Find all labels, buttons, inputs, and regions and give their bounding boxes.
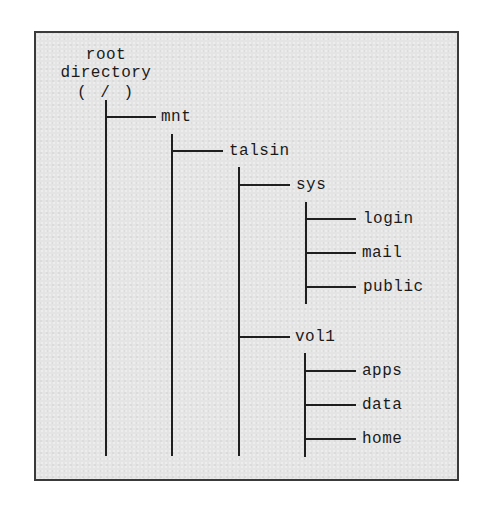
node-login: login xyxy=(363,210,414,228)
node-talsin: talsin xyxy=(229,142,290,160)
node-public: public xyxy=(363,278,424,296)
root-label-line1: root xyxy=(56,46,156,64)
node-sys: sys xyxy=(296,176,326,194)
node-vol1: vol1 xyxy=(295,328,335,346)
node-mail: mail xyxy=(362,244,402,262)
node-mnt: mnt xyxy=(161,108,191,126)
node-apps: apps xyxy=(362,362,402,380)
root-label-line3: ( / ) xyxy=(56,84,156,102)
root-label-line2: directory xyxy=(56,64,156,82)
node-data: data xyxy=(362,396,402,414)
node-home: home xyxy=(362,430,402,448)
